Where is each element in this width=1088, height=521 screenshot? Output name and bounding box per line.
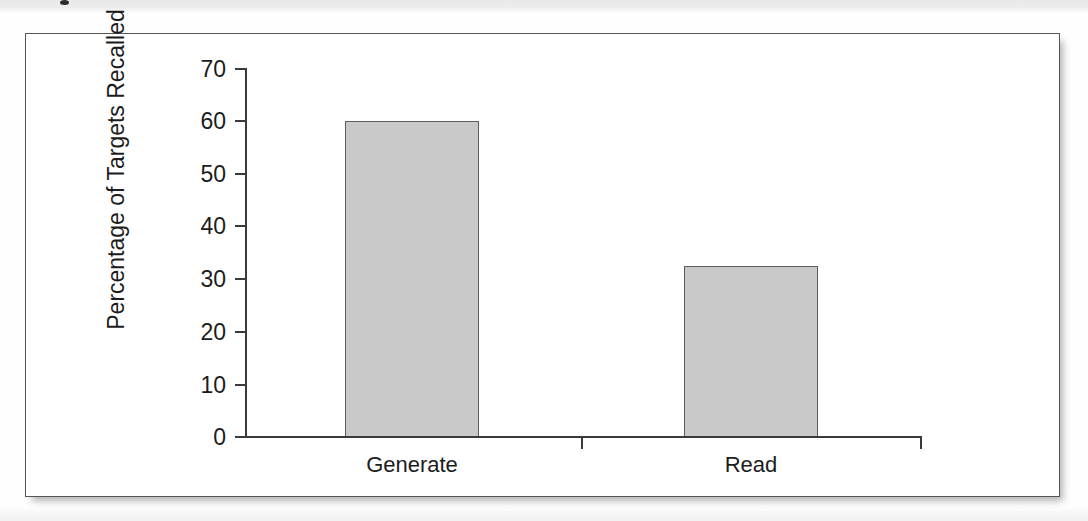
x-tick-end [920, 438, 922, 449]
y-tick-10 [235, 384, 245, 386]
plot-area: Percentage of Targets Recalled 70 60 50 … [26, 34, 1059, 496]
x-tick-label-read: Read [681, 452, 821, 478]
y-tick-label-40: 40 [166, 213, 226, 240]
bar-generate[interactable] [345, 121, 479, 437]
page-bottom-scan-band [0, 507, 1088, 521]
y-axis-line [245, 68, 247, 438]
caption-remnant-mark [60, 0, 69, 5]
y-tick-label-30: 30 [166, 266, 226, 293]
x-axis-line [245, 436, 922, 438]
y-tick-label-60: 60 [166, 108, 226, 135]
y-tick-70 [235, 68, 245, 70]
bar-read[interactable] [684, 266, 818, 437]
page-top-scan-band [0, 0, 1088, 13]
y-tick-40 [235, 225, 245, 227]
x-tick-divider [581, 438, 583, 449]
y-tick-label-10: 10 [166, 372, 226, 399]
y-tick-20 [235, 331, 245, 333]
y-tick-label-70: 70 [166, 56, 226, 83]
y-tick-label-20: 20 [166, 319, 226, 346]
x-tick-label-generate: Generate [342, 452, 482, 478]
y-tick-60 [235, 120, 245, 122]
y-tick-30 [235, 278, 245, 280]
y-tick-0 [235, 436, 245, 438]
figure-frame: Percentage of Targets Recalled 70 60 50 … [25, 33, 1060, 497]
y-axis-title: Percentage of Targets Recalled [103, 0, 130, 380]
y-tick-label-50: 50 [166, 161, 226, 188]
y-tick-label-0: 0 [166, 424, 226, 451]
scanned-page: Percentage of Targets Recalled 70 60 50 … [0, 0, 1088, 521]
y-tick-50 [235, 173, 245, 175]
